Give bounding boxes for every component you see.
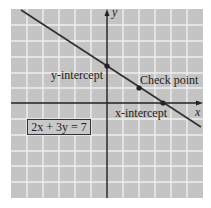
- x-intercept-label: x-intercept: [115, 107, 167, 119]
- y-intercept-point: [104, 63, 109, 68]
- y-axis-label: y: [112, 6, 117, 18]
- x-intercept-point: [160, 100, 165, 105]
- x-axis-label: x: [195, 106, 200, 118]
- graph-plot: [0, 0, 211, 208]
- equation-box: 2x + 3y = 7: [27, 119, 91, 135]
- y-intercept-label: y-intercept: [51, 69, 103, 81]
- check-point-label: Check point: [140, 74, 198, 86]
